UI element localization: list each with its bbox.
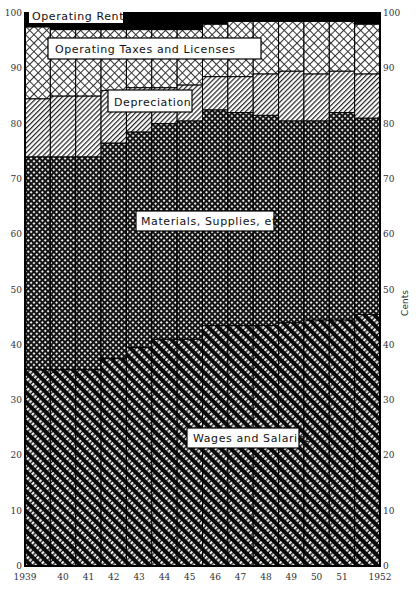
x-tick-label: 44 [159,572,171,582]
bar-segment [76,96,101,157]
y-tick-left: 70 [11,174,23,184]
y-tick-left: 0 [16,561,22,571]
bar-segment [50,96,75,157]
y-tick-left: 80 [11,119,23,129]
y-tick-left: 50 [11,285,23,295]
y-tick-right: 30 [383,395,395,405]
x-tick-label: 46 [209,572,221,582]
bar-segment [253,13,278,21]
bar-segment [279,21,304,71]
bar-segment [25,157,50,370]
bar-segment [329,21,354,71]
bar-segment [228,13,253,21]
bar-segment [76,370,101,566]
svg-text:Depreciation: Depreciation [114,96,191,109]
y-tick-left: 40 [11,340,23,350]
x-tick-label: 40 [57,572,69,582]
bar-segment [304,121,329,320]
label-wages: Wages and Salaries [187,428,311,448]
y-tick-right: 100 [383,8,400,18]
x-tick-label: 50 [311,572,323,582]
y-tick-right: 50 [383,285,395,295]
bar-segment [355,118,380,314]
y-tick-right: 90 [383,63,395,73]
x-tick-label: 1939 [14,572,37,582]
x-tick-label: 48 [260,572,272,582]
bar-segment [329,71,354,112]
svg-text:Operating Rents: Operating Rents [32,10,130,23]
bar-segment [152,13,177,30]
bar-segment [101,359,126,566]
bar-segment [25,370,50,566]
y-tick-left: 20 [11,450,23,460]
bar-segment [228,77,253,113]
y-tick-right: 20 [383,450,395,460]
y-tick-right: 10 [383,506,395,516]
x-tick-label: 41 [83,572,94,582]
x-tick-label: 49 [286,572,298,582]
bar-segment [329,113,354,320]
x-tick-label: 45 [184,572,196,582]
svg-text:Materials, Supplies, etc.: Materials, Supplies, etc. [141,215,288,228]
bar-segment [355,13,380,24]
bar-segment [203,77,228,110]
bar-segment [76,157,101,370]
bar-segment [279,13,304,21]
bar-segment [329,13,354,21]
y-tick-right: 60 [383,229,395,239]
bar-segment [355,24,380,74]
y-tick-right: 0 [383,561,389,571]
label-depreciation: Depreciation [108,90,192,112]
bar-segment [329,320,354,566]
bar-segment [101,143,126,359]
bars-group [25,13,380,566]
stacked-bar-chart: 0010102020303040405050606070708080909010… [0,0,419,589]
bar-segment [126,348,151,566]
x-tick-label: 51 [336,572,347,582]
label-materials: Materials, Supplies, etc. [136,211,288,231]
y-tick-right: 70 [383,174,395,184]
y-tick-left: 30 [11,395,23,405]
x-tick-label: 42 [108,572,119,582]
bar-segment [50,370,75,566]
bar-segment [177,13,202,30]
bar-segment [279,71,304,121]
bar-segment [355,74,380,118]
bar-segment [126,132,151,348]
bar-segment [304,21,329,74]
y-tick-right: 80 [383,119,395,129]
x-tick-label: 43 [133,572,145,582]
bar-segment [355,314,380,566]
y-tick-left: 90 [11,63,23,73]
label-operating-taxes: Operating Taxes and Licenses [48,38,261,59]
y-tick-left: 100 [5,8,22,18]
bar-segment [177,339,202,566]
bar-segment [304,74,329,121]
svg-text:Wages and Salaries: Wages and Salaries [193,432,311,445]
label-operating-rents: Operating Rents [29,9,130,23]
bar-segment [253,74,278,115]
bar-segment [25,27,50,99]
bar-segment [152,339,177,566]
x-tick-label: 47 [235,572,247,582]
svg-text:Operating Taxes and Licenses: Operating Taxes and Licenses [55,43,236,56]
bar-segment [50,157,75,370]
bar-segment [203,13,228,24]
y-tick-left: 10 [11,506,23,516]
y-tick-left: 60 [11,229,23,239]
y-tick-right: 40 [383,340,395,350]
bar-segment [25,99,50,157]
bar-segment [304,13,329,21]
x-tick-label: 1952 [369,572,392,582]
y-axis-title: Cents [400,290,410,316]
